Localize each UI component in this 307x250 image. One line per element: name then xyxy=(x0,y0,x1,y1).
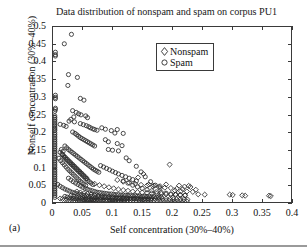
panel-label: (a) xyxy=(9,222,20,233)
y-tick-label: 0.05 xyxy=(0,180,46,190)
x-tick-mark xyxy=(52,26,53,30)
y-tick-mark xyxy=(288,79,292,80)
x-tick-mark xyxy=(292,199,293,203)
data-point-diamond xyxy=(102,184,107,189)
y-tick-mark xyxy=(288,203,292,204)
diamond-icon xyxy=(159,46,170,57)
data-point-circle xyxy=(110,148,114,152)
data-point-circle xyxy=(75,75,79,79)
data-point-circle xyxy=(115,141,119,145)
x-tick-mark xyxy=(202,26,203,30)
y-tick-label: 0 xyxy=(0,198,46,208)
y-tick-mark xyxy=(52,185,56,186)
y-tick-label: 0.35 xyxy=(0,74,46,84)
data-point-circle xyxy=(103,138,107,142)
y-tick-label: 0.1 xyxy=(0,163,46,173)
figure-panel: Data distribution of nonspam and spam on… xyxy=(0,0,307,250)
legend-label-spam: Spam xyxy=(170,57,193,68)
x-tick-mark xyxy=(82,26,83,30)
x-axis-label: Self concentration (30%–40%) xyxy=(52,224,292,235)
x-tick-mark xyxy=(202,199,203,203)
legend-item-spam: Spam xyxy=(159,57,208,68)
legend-item-nonspam: Nonspam xyxy=(159,46,208,57)
data-point-diamond xyxy=(116,187,121,192)
x-tick-mark xyxy=(232,199,233,203)
data-point-circle xyxy=(116,149,120,153)
x-tick-mark xyxy=(112,199,113,203)
y-tick-mark xyxy=(288,150,292,151)
x-tick-mark xyxy=(262,199,263,203)
y-tick-mark xyxy=(52,79,56,80)
x-tick-label: 0.4 xyxy=(272,208,307,218)
data-point-circle xyxy=(121,131,125,135)
y-tick-mark xyxy=(288,132,292,133)
y-tick-mark xyxy=(52,150,56,151)
chart-title: Data distribution of nonspam and spam on… xyxy=(56,6,304,17)
y-tick-label: 0.5 xyxy=(0,21,46,31)
data-point-diamond xyxy=(202,192,207,197)
data-point-circle xyxy=(82,98,86,102)
data-point-circle xyxy=(154,190,158,194)
data-point-circle xyxy=(134,164,138,168)
x-tick-mark xyxy=(172,26,173,30)
data-point-diamond xyxy=(177,183,182,188)
data-point-diamond xyxy=(196,192,201,197)
data-point-circle xyxy=(120,144,124,148)
y-axis-label: Nonself concentration (30%–40%) xyxy=(26,0,37,174)
data-point-diamond xyxy=(167,162,172,167)
chart-legend: Nonspam Spam xyxy=(156,43,214,71)
data-point-circle xyxy=(106,140,110,144)
y-tick-label: 0.15 xyxy=(0,145,46,155)
data-point-diamond xyxy=(193,187,198,192)
data-point-diamond xyxy=(190,189,195,194)
data-point-circle xyxy=(103,127,107,131)
circle-icon xyxy=(159,57,170,68)
y-tick-mark xyxy=(288,168,292,169)
x-tick-mark xyxy=(262,26,263,30)
data-point-circle xyxy=(72,120,76,124)
y-tick-mark xyxy=(52,61,56,62)
x-tick-mark xyxy=(292,26,293,30)
data-point-diamond xyxy=(115,177,120,182)
y-tick-mark xyxy=(52,203,56,204)
y-tick-mark xyxy=(288,115,292,116)
data-point-circle xyxy=(127,159,131,163)
y-tick-label: 0.25 xyxy=(0,110,46,120)
y-tick-mark xyxy=(52,115,56,116)
y-tick-label: 0.2 xyxy=(0,127,46,137)
legend-label-nonspam: Nonspam xyxy=(170,46,208,57)
y-tick-mark xyxy=(52,97,56,98)
data-point-circle xyxy=(66,83,70,87)
data-point-diamond xyxy=(97,183,102,188)
page-divider-rule xyxy=(0,245,307,247)
x-tick-mark xyxy=(112,26,113,30)
data-point-circle xyxy=(113,131,117,135)
x-tick-mark xyxy=(142,199,143,203)
x-tick-mark xyxy=(82,199,83,203)
y-tick-label: 0.4 xyxy=(0,56,46,66)
data-point-diamond xyxy=(106,185,111,190)
y-tick-mark xyxy=(52,44,56,45)
data-point-diamond xyxy=(111,186,116,191)
y-tick-mark xyxy=(288,185,292,186)
x-tick-mark xyxy=(52,199,53,203)
x-tick-mark xyxy=(142,26,143,30)
x-tick-mark xyxy=(172,199,173,203)
data-point-circle xyxy=(62,42,66,46)
data-point-diamond xyxy=(125,188,130,193)
x-tick-mark xyxy=(232,26,233,30)
y-tick-mark xyxy=(288,61,292,62)
y-tick-mark xyxy=(288,97,292,98)
data-point-circle xyxy=(66,73,70,77)
y-tick-mark xyxy=(288,44,292,45)
y-tick-mark xyxy=(52,132,56,133)
data-point-circle xyxy=(106,147,110,151)
y-tick-label: 0.45 xyxy=(0,39,46,49)
data-point-circle xyxy=(69,32,73,36)
y-tick-label: 0.3 xyxy=(0,92,46,102)
y-tick-mark xyxy=(52,168,56,169)
data-point-diamond xyxy=(121,188,126,193)
